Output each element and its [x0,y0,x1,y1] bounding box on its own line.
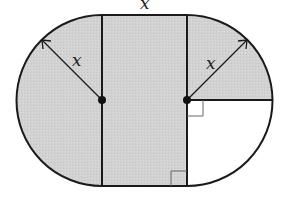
left-center-point [98,96,106,104]
left-radius-label: x [72,50,82,70]
geometry-diagram: x x x [0,0,286,203]
top-width-label: x [140,0,150,13]
right-radius-label: x [206,53,216,73]
left-semicircle-shaded [16,15,102,186]
right-center-point [183,96,191,104]
center-rectangle-shaded [102,15,187,186]
